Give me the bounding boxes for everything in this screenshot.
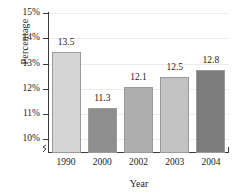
bar-value-label: 12.8 [191,55,231,65]
bar-chart: Percentage 10%11%12%13%14%15% 13.5199011… [0,0,246,196]
bar-value-label: 12.5 [155,62,195,72]
y-axis-label: 15% [0,7,40,17]
x-axis-label: 2002 [119,157,159,167]
bar[interactable] [88,108,117,153]
x-axis-label: 1990 [46,157,86,167]
y-axis-label: 11% [0,108,40,118]
bar[interactable] [52,52,81,153]
x-axis-label: 2003 [155,157,195,167]
bar[interactable] [124,87,153,153]
bar-value-label: 11.3 [82,93,122,103]
bar[interactable] [160,77,189,153]
bar-value-label: 12.1 [119,72,159,82]
bar-value-label: 13.5 [46,37,86,47]
y-axis-label: 10% [0,133,40,143]
x-axis-label: 2004 [191,157,231,167]
x-axis-title: Year [48,178,230,189]
y-axis-label: 13% [0,58,40,68]
y-axis-label: 12% [0,83,40,93]
bars-container [48,12,229,153]
y-axis-label: 14% [0,32,40,42]
x-axis-label: 2000 [82,157,122,167]
bar[interactable] [196,70,225,153]
